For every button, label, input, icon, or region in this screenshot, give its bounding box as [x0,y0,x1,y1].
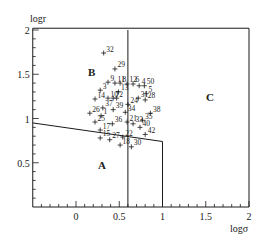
data-point: 36 [110,115,123,126]
point-label: 9 [111,74,115,83]
point-label: 15 [103,129,111,138]
point-label: 36 [115,115,123,124]
point-label: 6 [136,75,140,84]
region-label-a: A [98,159,106,171]
point-label: 26 [92,105,100,114]
x-tick-label: 2 [247,211,252,222]
point-label: 2 [119,90,123,99]
y-axis-label: logr [30,13,47,24]
point-label: 32 [106,45,114,54]
point-label: 42 [148,126,156,135]
data-points: 3229911812645031351410723128243739342613… [87,45,160,150]
scatter-chart: 00.511.520.511.52 ABC 322991181264503135… [0,0,267,237]
data-point: 30 [129,138,142,149]
data-point: 15 [98,129,111,140]
point-label: 30 [134,138,142,147]
point-label: 14 [98,91,106,100]
point-label: 29 [117,60,125,69]
point-label: 39 [116,101,124,110]
y-tick-label: 1 [25,114,30,125]
x-tick-label: 1 [160,211,165,222]
x-tick-label: 0 [74,211,79,222]
point-label: 28 [148,91,156,100]
data-point: 14 [93,91,106,102]
x-axis-label: logσ [230,223,249,234]
region-label-b: B [88,66,96,78]
data-point: 29 [112,60,125,71]
point-label: 4 [142,77,146,86]
point-label: 8 [123,75,127,84]
region-label-c: C [206,91,214,103]
point-label: 27 [112,131,120,140]
x-tick-label: 0.5 [113,211,126,222]
data-point: 32 [101,45,114,56]
point-label: 18 [123,137,131,146]
y-tick-label: 1.5 [17,69,30,80]
point-label: 34 [128,104,136,113]
y-tick-label: 2 [25,25,30,36]
y-tick-label: 0.5 [17,158,30,169]
point-label: 38 [153,105,161,114]
x-tick-label: 1.5 [200,211,213,222]
point-label: 3 [103,82,107,91]
